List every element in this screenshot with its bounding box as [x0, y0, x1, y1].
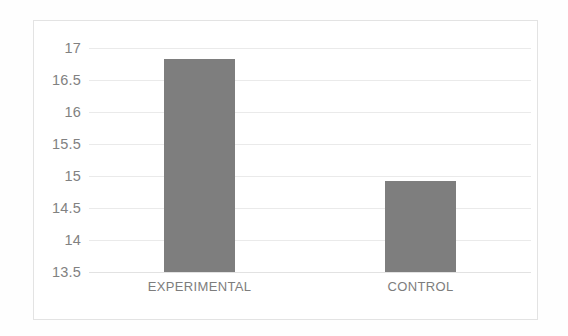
bars-layer: [89, 48, 531, 272]
x-tick-label: CONTROL: [387, 279, 453, 294]
y-tick-label: 16.5: [52, 72, 81, 88]
y-tick-label: 16: [64, 104, 81, 120]
y-tick-label: 14: [64, 232, 81, 248]
page-background: 1716.51615.51514.51413.5 EXPERIMENTALCON…: [0, 0, 568, 336]
plot-area: [89, 48, 531, 272]
bar-experimental: [164, 59, 236, 272]
y-tick-label: 17: [64, 40, 81, 56]
y-axis: 1716.51615.51514.51413.5: [34, 21, 86, 319]
x-axis: EXPERIMENTALCONTROL: [89, 279, 531, 305]
y-tick-label: 15: [64, 168, 81, 184]
y-tick-label: 15.5: [52, 136, 81, 152]
chart-inner: 1716.51615.51514.51413.5 EXPERIMENTALCON…: [34, 21, 537, 319]
y-tick-label: 14.5: [52, 200, 81, 216]
gridline: [89, 272, 531, 273]
chart-frame: 1716.51615.51514.51413.5 EXPERIMENTALCON…: [33, 20, 538, 320]
bar-control: [385, 181, 457, 272]
x-tick-label: EXPERIMENTAL: [148, 279, 252, 294]
y-tick-label: 13.5: [52, 264, 81, 280]
